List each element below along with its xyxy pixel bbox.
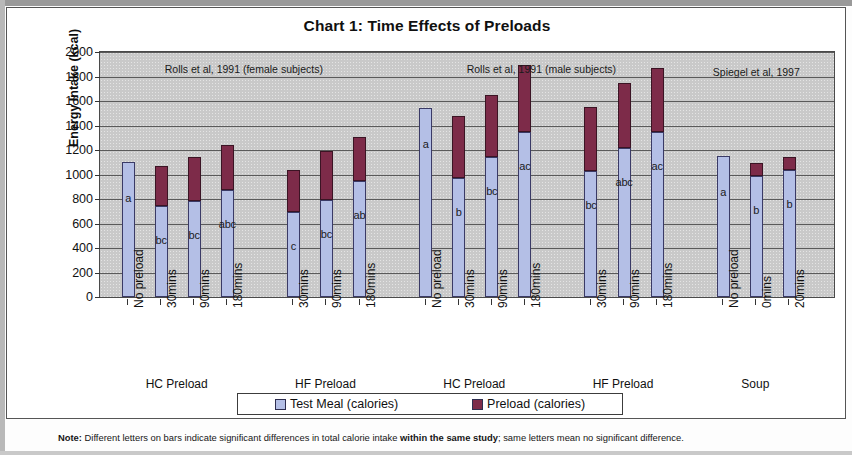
x-group-label: HC Preload: [146, 377, 208, 391]
significance-letter: a: [125, 192, 131, 204]
y-tick-label: 0: [86, 290, 93, 304]
x-tick-mark: [193, 299, 194, 305]
y-tick-label: 400: [72, 241, 93, 255]
x-tick-label: 180mins: [231, 263, 245, 308]
legend-label-test-meal: Test Meal (calories): [290, 397, 398, 411]
legend-swatch-test-meal-icon: [275, 399, 286, 410]
legend-label-preload: Preload (calories): [487, 397, 585, 411]
x-tick-mark: [491, 299, 492, 305]
y-tick-mark: [95, 248, 100, 249]
scan-edge-left: [0, 0, 5, 455]
x-tick-label: 30mins: [297, 269, 311, 308]
footnote-emphasis: within the same study: [400, 432, 498, 443]
x-tick-mark: [722, 299, 723, 305]
y-tick-label: 2000: [65, 45, 93, 59]
x-group-label: HF Preload: [295, 377, 356, 391]
x-tick-label: No preload: [430, 249, 444, 308]
legend: Test Meal (calories) Preload (calories): [237, 393, 623, 415]
x-tick-mark: [524, 299, 525, 305]
x-tick-label: 180mins: [364, 263, 378, 308]
x-tick-mark: [160, 299, 161, 305]
bar-segment-preload: [584, 107, 597, 171]
bar-segment-preload: [651, 68, 664, 132]
legend-item-preload: Preload (calories): [472, 397, 585, 411]
significance-letter: ac: [519, 160, 530, 172]
significance-letter: b: [786, 198, 792, 210]
y-tick-mark: [95, 175, 100, 176]
bar: [618, 83, 631, 297]
study-annotation: Spiegel et al, 1997: [713, 66, 800, 78]
x-tick-label: 90mins: [628, 269, 642, 308]
y-tick-label: 1800: [65, 70, 93, 84]
legend-swatch-preload-icon: [472, 399, 483, 410]
y-tick-label: 1000: [65, 168, 93, 182]
legend-item-test-meal: Test Meal (calories): [275, 397, 398, 411]
significance-letter: a: [423, 138, 429, 150]
bar-segment-preload: [518, 65, 531, 131]
significance-letter: bc: [585, 199, 596, 211]
bar-segment-preload: [188, 157, 201, 202]
x-tick-mark: [623, 299, 624, 305]
y-tick-mark: [95, 150, 100, 151]
study-annotation: Rolls et al, 1991 (female subjects): [165, 63, 323, 75]
footnote-prefix: Note:: [58, 432, 82, 443]
significance-letter: bc: [156, 234, 167, 246]
y-tick-mark: [95, 77, 100, 78]
y-tick-label: 200: [72, 266, 93, 280]
study-annotation: Rolls et al, 1991 (male subjects): [467, 63, 616, 75]
x-tick-mark: [127, 299, 128, 305]
y-tick-label: 1200: [65, 143, 93, 157]
y-tick-mark: [95, 126, 100, 127]
y-tick-mark: [95, 199, 100, 200]
bar-segment-preload: [485, 95, 498, 157]
bar-segment-preload: [750, 163, 763, 175]
significance-letter: c: [291, 240, 296, 252]
x-tick-mark: [226, 299, 227, 305]
x-tick-mark: [292, 299, 293, 305]
y-tick-mark: [95, 273, 100, 274]
x-tick-mark: [590, 299, 591, 305]
significance-letter: a: [720, 186, 726, 198]
bar-segment-preload: [452, 116, 465, 178]
x-group-label: Soup: [741, 377, 769, 391]
x-group-label: HF Preload: [593, 377, 654, 391]
bar-segment-preload: [320, 151, 333, 200]
x-group-label: HC Preload: [443, 377, 505, 391]
x-tick-label: 180mins: [529, 263, 543, 308]
x-tick-mark: [425, 299, 426, 305]
x-tick-mark: [359, 299, 360, 305]
x-tick-label: 20mins: [793, 269, 807, 308]
bar-segment-preload: [783, 157, 796, 170]
y-tick-label: 600: [72, 217, 93, 231]
y-tick-label: 1400: [65, 119, 93, 133]
x-tick-label: 90mins: [330, 269, 344, 308]
x-tick-label: 30mins: [463, 269, 477, 308]
scan-edge-top: [0, 0, 852, 6]
bar-segment-preload: [221, 145, 234, 190]
x-tick-mark: [788, 299, 789, 305]
x-tick-label: 30mins: [165, 269, 179, 308]
y-tick-label: 1600: [65, 94, 93, 108]
y-tick-label: 800: [72, 192, 93, 206]
bar-segment-preload: [155, 166, 168, 206]
scan-edge-bottom: [0, 451, 852, 455]
y-tick-mark: [95, 224, 100, 225]
chart-title: Chart 1: Time Effects of Preloads: [7, 17, 847, 35]
x-tick-label: 90mins: [198, 269, 212, 308]
plot-area: abcbcabccbcababbcacbcabcacabb Rolls et a…: [99, 51, 835, 298]
significance-letter: b: [456, 206, 462, 218]
significance-letter: ac: [652, 160, 663, 172]
footnote-part2: ; same letters mean no significant diffe…: [498, 432, 684, 443]
bar-segment-preload: [353, 137, 366, 181]
x-tick-mark: [325, 299, 326, 305]
x-tick-label: No preload: [132, 249, 146, 308]
y-tick-mark: [95, 101, 100, 102]
x-tick-label: 0mins: [760, 276, 774, 308]
significance-letter: bc: [189, 229, 200, 241]
bar-segment-preload: [287, 170, 300, 213]
significance-letter: bc: [486, 185, 497, 197]
significance-letter: b: [753, 204, 759, 216]
footnote-part1: Different letters on bars indicate signi…: [82, 432, 400, 443]
significance-letter: abc: [615, 176, 632, 188]
x-tick-label: 90mins: [496, 269, 510, 308]
